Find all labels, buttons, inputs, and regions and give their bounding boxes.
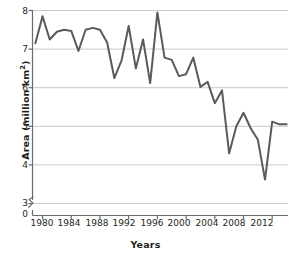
line-chart: Area (million km2) Years 8 7 6 5 4 3 0 1… [0,0,291,256]
x-tick-marks [43,216,273,220]
data-series-line [35,12,286,179]
plot-area [0,0,291,256]
gridlines [33,11,289,204]
